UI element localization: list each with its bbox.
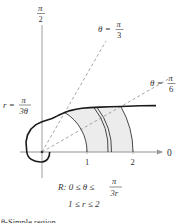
region-line1-num: π <box>112 176 117 186</box>
region-line1: R: 0 ≤ θ ≤ <box>57 182 94 192</box>
ray-label-pi6-num: π <box>169 73 174 83</box>
ray-label-pi3-num: π <box>117 19 122 29</box>
curve-label-lhs: r = <box>3 100 15 110</box>
ray-label-pi6-lhs: θ = <box>150 78 163 88</box>
polar-region-diagram: π 2 0 1 2 θ = π 3 θ = π 6 r = π 3θ R: 0 … <box>0 0 185 223</box>
tick-label-1: 1 <box>85 157 89 167</box>
region-line2: 1 ≤ r ≤ 2 <box>68 199 100 209</box>
caption: θ-Simple region <box>1 217 57 223</box>
ray-label-pi3-den: 3 <box>117 30 121 40</box>
axis-arrow-icon <box>157 150 163 155</box>
curve-label-num: π <box>22 95 27 105</box>
region-line1-den: 3r <box>110 188 119 198</box>
pole <box>41 151 44 154</box>
label-pi-half-num: π <box>38 3 43 13</box>
ray-label-pi6-den: 6 <box>169 84 173 94</box>
shaded-region <box>65 107 133 153</box>
label-pi-half-den: 2 <box>39 14 43 24</box>
tick-label-2: 2 <box>131 157 135 167</box>
label-polar-axis-0: 0 <box>167 148 172 158</box>
ray-label-pi3-lhs: θ = <box>98 24 111 34</box>
curve-label-den: 3θ <box>19 106 28 116</box>
